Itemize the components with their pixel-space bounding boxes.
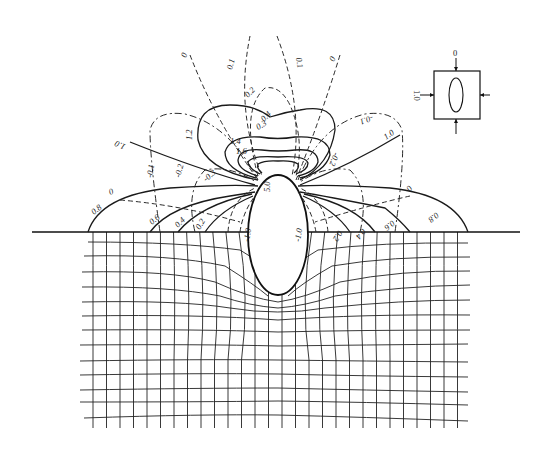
svg-text:0.8: 0.8 [426, 210, 441, 225]
svg-text:1.2: 1.2 [184, 129, 194, 140]
svg-text:-0.2: -0.2 [172, 162, 185, 178]
svg-text:0.1: 0.1 [224, 58, 236, 71]
svg-text:1.6: 1.6 [236, 146, 247, 156]
svg-text:1.4: 1.4 [230, 136, 241, 146]
svg-text:0: 0 [327, 54, 338, 63]
svg-text:-0.1: -0.1 [144, 163, 156, 178]
left-arrowhead-icon [430, 93, 434, 97]
inset-ellipse [449, 78, 463, 112]
inset-side-load-label: 1.0 [412, 90, 422, 101]
stress-contour-diagram: 0 0.1 0.1 0 0.2 1.2 1.4 1.6 0.3 0.4 1.0 … [0, 0, 545, 456]
svg-text:0.4: 0.4 [353, 227, 368, 242]
svg-text:1.0: 1.0 [112, 138, 127, 152]
svg-text:0.2: 0.2 [331, 229, 345, 244]
svg-text:1.0: 1.0 [381, 127, 396, 142]
svg-text:0.4: 0.4 [172, 214, 187, 229]
svg-text:5.0: 5.0 [262, 181, 272, 192]
svg-text:0: 0 [107, 186, 115, 197]
svg-text:0.8: 0.8 [89, 202, 104, 217]
svg-text:0: 0 [178, 51, 189, 59]
svg-text:0.6: 0.6 [147, 212, 162, 227]
inset-top-load-label: 0 [453, 48, 457, 58]
svg-text:0.1: 0.1 [294, 57, 306, 69]
loading-inset: 0 1.0 [412, 48, 490, 134]
right-arrowhead-icon [480, 93, 484, 97]
svg-text:0.2: 0.2 [193, 216, 207, 231]
